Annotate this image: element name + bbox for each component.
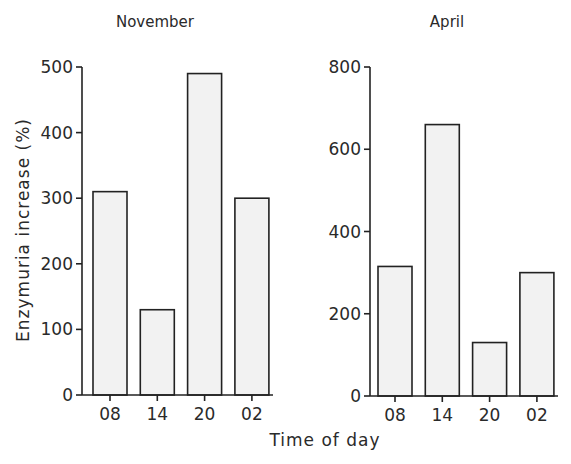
bar-20 [473,343,507,396]
y-tick-label: 800 [329,57,361,77]
april-title: April [430,13,464,31]
november-bars [93,74,269,395]
y-tick-label: 200 [329,304,361,324]
november-panel: November 0100200300400500 08142002 [41,13,273,424]
figure: November 0100200300400500 08142002 April… [0,0,571,464]
y-tick-label: 400 [329,222,361,242]
y-tick-label: 200 [41,254,73,274]
y-tick-label: 100 [41,319,73,339]
y-tick-label: 600 [329,139,361,159]
y-tick-label: 0 [62,385,73,405]
x-tick-label: 14 [431,405,453,425]
x-tick-label: 02 [241,404,263,424]
bar-08 [93,192,127,395]
x-tick-label: 08 [384,405,406,425]
bar-08 [378,266,412,396]
november-y-axis-ticks: 0100200300400500 [41,57,82,405]
y-tick-label: 500 [41,57,73,77]
y-tick-label: 0 [350,386,361,406]
x-tick-label: 08 [99,404,121,424]
bar-02 [520,273,554,396]
bar-02 [235,198,269,395]
x-tick-label: 02 [526,405,548,425]
april-x-axis-ticks: 08142002 [384,396,548,425]
y-tick-label: 300 [41,188,73,208]
november-x-axis-ticks: 08142002 [99,395,263,424]
november-title: November [116,13,195,31]
bar-20 [188,74,222,395]
x-axis-label: Time of day [268,430,380,450]
y-axis-label: Enzymuria increase (%) [13,118,33,342]
april-panel: April 0200400600800 08142002 [329,13,558,425]
y-tick-label: 400 [41,123,73,143]
april-y-axis-ticks: 0200400600800 [329,57,370,406]
x-tick-label: 20 [479,405,501,425]
x-tick-label: 20 [194,404,216,424]
bar-14 [425,125,459,396]
bar-14 [140,310,174,395]
april-bars [378,125,554,396]
x-tick-label: 14 [146,404,168,424]
